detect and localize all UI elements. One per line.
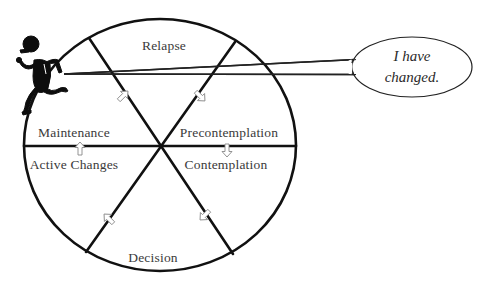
speech-bubble-line-1: I have bbox=[392, 48, 430, 64]
stages-of-change-diagram: Relapse Precontemplation Contemplation D… bbox=[0, 0, 482, 290]
stage-label-precontemplation: Precontemplation bbox=[180, 125, 278, 140]
speech-bubble: I have changed. bbox=[350, 37, 472, 97]
stage-label-relapse: Relapse bbox=[142, 38, 186, 53]
stage-label-contemplation: Contemplation bbox=[185, 157, 268, 172]
speech-bubble-line-2: changed. bbox=[385, 69, 440, 85]
running-person-icon bbox=[16, 36, 68, 115]
stage-label-maintenance: Maintenance bbox=[38, 125, 110, 140]
stage-label-active-changes: Active Changes bbox=[30, 157, 119, 172]
flow-arrow-active-changes-to-maintenance-icon bbox=[75, 142, 85, 155]
stage-label-decision: Decision bbox=[128, 250, 178, 265]
